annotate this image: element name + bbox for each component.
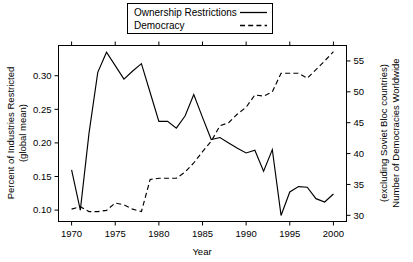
y2-tick-label: 30 bbox=[354, 210, 365, 221]
y-tick-label: 0.20 bbox=[33, 137, 52, 148]
x-tick-label: 1990 bbox=[236, 228, 257, 239]
plot-frame bbox=[59, 46, 347, 222]
y-tick-label: 0.15 bbox=[33, 171, 52, 182]
y-tick-label: 0.10 bbox=[33, 204, 52, 215]
x-tick-label: 2000 bbox=[323, 228, 344, 239]
y2-tick-label: 55 bbox=[354, 55, 365, 66]
x-tick-label: 1980 bbox=[148, 228, 169, 239]
y2-tick-label: 35 bbox=[354, 179, 365, 190]
y-axis-right-ticks: 303540455055 bbox=[347, 55, 365, 220]
y-axis-left-title-line2: (global mean) bbox=[17, 104, 28, 162]
y-axis-left-ticks: 0.100.150.200.250.30 bbox=[33, 70, 59, 215]
x-tick-label: 1970 bbox=[61, 228, 82, 239]
x-axis-ticks: 1970197519801985199019952000 bbox=[61, 42, 344, 239]
x-axis-title: Year bbox=[192, 246, 211, 257]
x-tick-label: 1985 bbox=[192, 228, 213, 239]
chart-figure: 1970197519801985199019952000 0.100.150.2… bbox=[0, 0, 413, 262]
y-axis-right-title-line2: (excluding Soviet Bloc countries) bbox=[378, 64, 389, 202]
y2-tick-label: 45 bbox=[354, 117, 365, 128]
series-line-ownership-restrictions bbox=[72, 52, 334, 215]
legend: Ownership Restrictions Democracy bbox=[128, 4, 273, 34]
y-tick-label: 0.30 bbox=[33, 70, 52, 81]
line-chart: 1970197519801985199019952000 0.100.150.2… bbox=[0, 0, 413, 262]
x-tick-label: 1975 bbox=[105, 228, 126, 239]
legend-label-democracy: Democracy bbox=[134, 20, 185, 31]
legend-label-ownership-restrictions: Ownership Restrictions bbox=[134, 7, 237, 18]
x-tick-label: 1995 bbox=[279, 228, 300, 239]
data-series-group bbox=[72, 52, 334, 216]
series-line-democracy bbox=[72, 52, 334, 212]
y-tick-label: 0.25 bbox=[33, 104, 52, 115]
y-axis-left-title-line1: Percent of Industries Restricted bbox=[5, 67, 16, 200]
y2-tick-label: 40 bbox=[354, 148, 365, 159]
y2-tick-label: 50 bbox=[354, 86, 365, 97]
y-axis-right-title-line1: Number of Democracies Worldwide bbox=[390, 58, 401, 207]
